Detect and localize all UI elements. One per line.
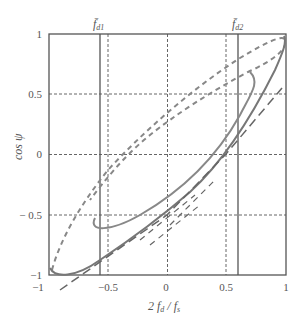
x-axis-label: 2 fd / fs [148, 299, 180, 314]
y-axis-label: cos ψ [11, 133, 25, 160]
xtick-0: 0 [163, 281, 169, 293]
xtick-neg1: −1 [32, 281, 44, 293]
xtick-1: 1 [283, 281, 289, 293]
xtick-neg0.5: −0.5 [98, 281, 118, 293]
ytick-0.5: 0.5 [28, 88, 42, 100]
label-fd1: f̄d1 [93, 17, 104, 32]
ytick-1: 1 [37, 28, 43, 40]
ytick-neg1: −1 [30, 269, 42, 281]
ytick-neg0.5: − 0.5 [19, 209, 42, 221]
xtick-0.5: 0.5 [219, 281, 233, 293]
ytick-0: 0 [37, 148, 43, 160]
label-fd2: f̄d2 [232, 17, 243, 32]
chart: f̄d1 f̄d2 1 0.5 0 − 0.5 −1 −1 −0.5 0 0.5… [0, 0, 304, 324]
